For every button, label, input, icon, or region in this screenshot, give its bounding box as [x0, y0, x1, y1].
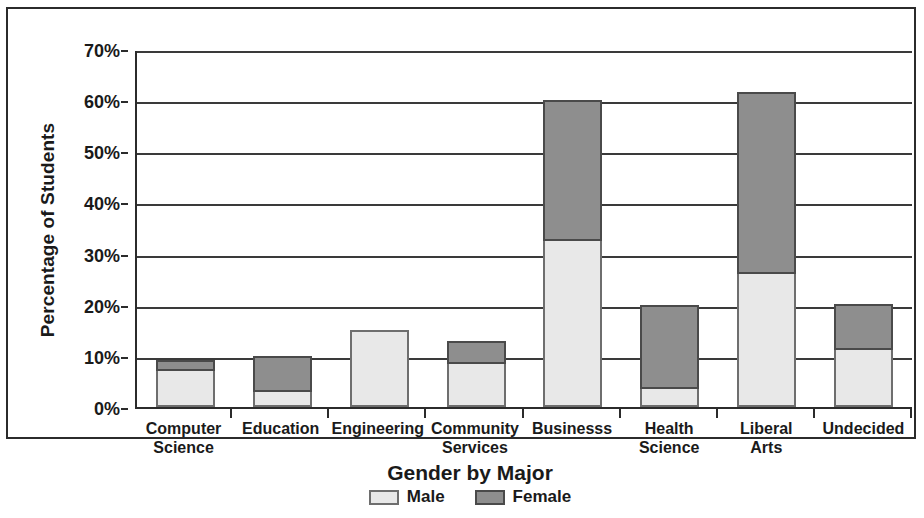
y-axis-tick-label: 50%	[84, 143, 120, 164]
bar-segment-female[interactable]	[253, 356, 312, 392]
plot-area	[135, 51, 912, 409]
chart-frame: Percentage of Students 0%10%20%30%40%50%…	[6, 7, 916, 439]
bar-segment-male[interactable]	[543, 241, 602, 407]
x-axis-tick-mark	[910, 409, 912, 418]
bar-slot	[621, 51, 718, 407]
bar-segment-male[interactable]	[156, 371, 215, 407]
x-axis-tick-label: HealthScience	[621, 419, 718, 463]
y-axis-tick-label: 0%	[94, 399, 120, 420]
bar-segment-male[interactable]	[447, 364, 506, 407]
x-axis-tick-marks	[135, 409, 912, 418]
bar-segment-male[interactable]	[640, 389, 699, 407]
x-axis-tick-cell	[135, 409, 232, 418]
bar-segment-female[interactable]	[447, 341, 506, 364]
y-axis-tick-label: 40%	[84, 194, 120, 215]
bar-stack[interactable]	[350, 330, 409, 407]
bar-segment-female[interactable]	[543, 100, 602, 241]
x-axis-tick-labels: ComputerScienceEducationEngineeringCommu…	[135, 419, 912, 463]
x-axis-tick-label: Businesss	[524, 419, 621, 463]
bar-slot	[331, 51, 428, 407]
y-axis-tick-mark	[121, 408, 128, 410]
y-axis-tick-label: 10%	[84, 347, 120, 368]
x-axis-tick-label: Undecided	[815, 419, 912, 463]
bar-segment-female[interactable]	[156, 360, 215, 371]
y-axis-tick-label: 60%	[84, 92, 120, 113]
x-axis-title: Gender by Major	[8, 461, 924, 485]
legend-label: Female	[513, 487, 572, 507]
bar-slot	[815, 51, 912, 407]
x-axis-tick-label: CommunityServices	[426, 419, 523, 463]
y-axis-tick-labels: 0%10%20%30%40%50%60%70%	[66, 51, 128, 409]
x-axis-tick-cell	[718, 409, 815, 418]
bar-slot	[718, 51, 815, 407]
x-axis-tick-cell	[426, 409, 523, 418]
bar-slot	[137, 51, 234, 407]
x-axis-tick-cell	[329, 409, 426, 418]
y-axis-tick-mark	[121, 152, 128, 154]
bar-stack[interactable]	[543, 100, 602, 407]
y-axis-tick-label: 70%	[84, 41, 120, 62]
legend-item-male[interactable]: Male	[369, 487, 445, 507]
bar-segment-female[interactable]	[834, 304, 893, 350]
y-axis-tick-mark	[121, 203, 128, 205]
y-axis-tick-mark	[121, 357, 128, 359]
bar-stack[interactable]	[156, 360, 215, 407]
y-axis-tick-mark	[121, 101, 128, 103]
x-axis-title-text: Gender by Major	[387, 461, 553, 484]
bar-segment-female[interactable]	[737, 92, 796, 274]
y-axis-title-text: Percentage of Students	[37, 123, 59, 337]
legend-swatch-female-icon	[475, 490, 505, 505]
bar-stack[interactable]	[834, 304, 893, 407]
bar-slot	[525, 51, 622, 407]
chart-legend: MaleFemale	[8, 487, 924, 507]
x-axis-tick-label: Education	[232, 419, 329, 463]
legend-item-female[interactable]: Female	[475, 487, 572, 507]
y-axis-tick-mark	[121, 255, 128, 257]
x-axis-tick-cell	[621, 409, 718, 418]
y-axis-tick-mark	[121, 50, 128, 52]
x-axis-tick-cell	[815, 409, 912, 418]
bar-slot	[428, 51, 525, 407]
bar-segment-male[interactable]	[737, 274, 796, 407]
bar-stack[interactable]	[737, 92, 796, 407]
bar-stack[interactable]	[447, 341, 506, 407]
x-axis-tick-cell	[524, 409, 621, 418]
y-axis-title: Percentage of Students	[34, 51, 62, 409]
x-axis-tick-cell	[232, 409, 329, 418]
x-axis-tick-label: ComputerScience	[135, 419, 232, 463]
bar-stack[interactable]	[640, 305, 699, 407]
bar-slot	[234, 51, 331, 407]
bar-segment-male[interactable]	[253, 392, 312, 407]
y-axis-tick-label: 20%	[84, 296, 120, 317]
x-axis-tick-label: LiberalArts	[718, 419, 815, 463]
legend-label: Male	[407, 487, 445, 507]
bar-stack[interactable]	[253, 356, 312, 407]
y-axis-tick-label: 30%	[84, 245, 120, 266]
y-axis-tick-mark	[121, 306, 128, 308]
bar-segment-male[interactable]	[350, 330, 409, 407]
bars-layer	[137, 51, 912, 407]
legend-swatch-male-icon	[369, 490, 399, 505]
bar-segment-female[interactable]	[640, 305, 699, 389]
x-axis-tick-label: Engineering	[329, 419, 426, 463]
bar-segment-male[interactable]	[834, 350, 893, 407]
